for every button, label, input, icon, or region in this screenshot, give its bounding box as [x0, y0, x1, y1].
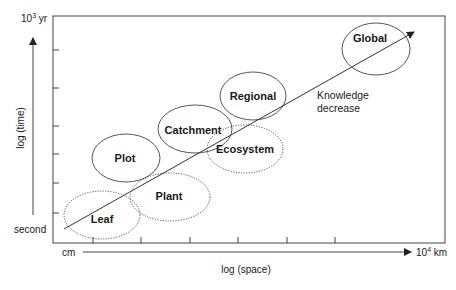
scale-label-catchment: Catchment [165, 124, 222, 136]
x-axis-title: log (space) [221, 264, 270, 275]
scale-label-regional: Regional [230, 90, 276, 102]
knowledge-trend-arrow [64, 32, 414, 229]
x-axis-right-label: 104 km [416, 246, 447, 258]
x-axis-left-label: cm [62, 247, 75, 258]
y-axis-title: log (time) [15, 107, 26, 149]
plot-frame [53, 16, 445, 243]
scale-label-plot: Plot [115, 152, 136, 164]
scale-label-global: Global [353, 32, 387, 44]
y-axis-ticks [53, 50, 59, 213]
y-axis-top-label: 103 yr [21, 12, 48, 24]
x-axis-ticks [93, 237, 335, 243]
scale-label-leaf: Leaf [91, 213, 114, 225]
y-axis-bottom-label: second [14, 224, 46, 235]
scale-diagram: 103 yr second log (time) cm 104 km log (… [0, 0, 456, 290]
scale-label-plant: Plant [156, 190, 183, 202]
scale-label-ecosystem: Ecosystem [216, 143, 274, 155]
trend-annotation-line1: Knowledge [317, 89, 369, 101]
trend-annotation-line2: decrease [317, 102, 360, 114]
